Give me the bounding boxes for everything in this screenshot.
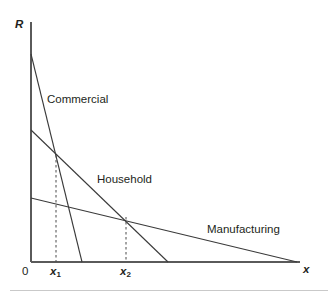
curve-household bbox=[31, 130, 168, 262]
origin-label: 0 bbox=[22, 266, 28, 278]
tick-label-x2-subscript: 2 bbox=[126, 270, 130, 279]
x-axis-label: x bbox=[303, 264, 309, 276]
plot-canvas bbox=[0, 0, 334, 297]
curve-label-manufacturing: Manufacturing bbox=[207, 224, 280, 236]
curve-label-household: Household bbox=[97, 174, 152, 186]
y-axis-label: R bbox=[15, 19, 23, 31]
tick-label-x1: x1 bbox=[50, 266, 61, 278]
tick-label-x1-subscript: 1 bbox=[56, 270, 60, 279]
tick-label-x2: x2 bbox=[120, 266, 131, 278]
rent-bid-gradient-figure: R x 0 x1 x2 Commercial Household Manufac… bbox=[0, 0, 334, 297]
bottom-divider bbox=[10, 290, 328, 291]
curve-label-commercial: Commercial bbox=[47, 94, 108, 106]
